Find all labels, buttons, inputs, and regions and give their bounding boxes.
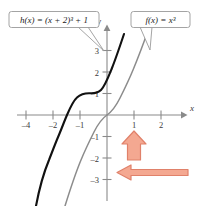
x-tick-label--1: –1 [75, 120, 85, 130]
x-tick-label--2: –2 [48, 120, 58, 130]
x-axis-label: x [189, 103, 194, 113]
y-tick-label--2: –2 [90, 154, 100, 164]
y-tick-label-2: 2 [95, 68, 99, 78]
y-axis-arrowhead [104, 25, 111, 32]
y-tick-label-3: 3 [95, 46, 99, 56]
graph-figure: –4 –2 –1 1 2 3 2 1 –1 –2 –3 y x h(x) = (… [0, 0, 199, 206]
callout-f: f(x) = x³ [131, 12, 190, 51]
y-tick-label-1: 1 [95, 89, 99, 99]
x-axis-arrowhead [181, 112, 188, 119]
x-tick-labels: –4 –2 –1 1 2 [21, 120, 163, 130]
x-tick-label-2: 2 [159, 120, 163, 130]
callout-f-label: f(x) = x³ [146, 15, 176, 25]
callout-h-tail [78, 27, 104, 51]
y-tick-label--3: –3 [90, 175, 100, 185]
callout-h: h(x) = (x + 2)³ + 1 [9, 12, 104, 52]
x-tick-label-1: 1 [132, 120, 136, 130]
cubic-transformation-plot: –4 –2 –1 1 2 3 2 1 –1 –2 –3 y x h(x) = (… [0, 0, 199, 206]
x-tick-label--4: –4 [21, 120, 31, 130]
up-arrow-icon [122, 131, 146, 160]
left-arrow-icon [117, 165, 188, 180]
callout-h-label: h(x) = (x + 2)³ + 1 [20, 15, 88, 25]
